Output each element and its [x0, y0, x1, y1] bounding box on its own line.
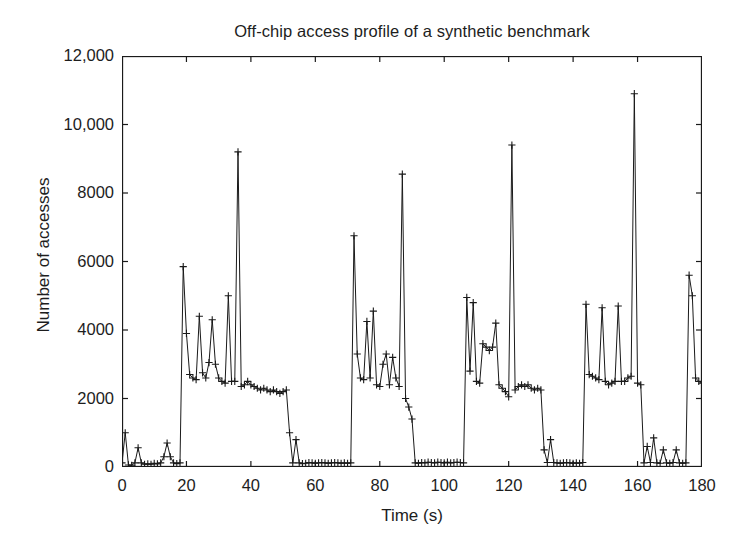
x-axis-tick-labels: 020406080100120140160180	[0, 0, 743, 554]
x-tick-label: 180	[662, 477, 742, 494]
y-axis-label: Number of accesses	[34, 105, 54, 405]
figure-canvas: Off-chip access profile of a synthetic b…	[0, 0, 743, 554]
x-axis-label: Time (s)	[122, 506, 702, 526]
